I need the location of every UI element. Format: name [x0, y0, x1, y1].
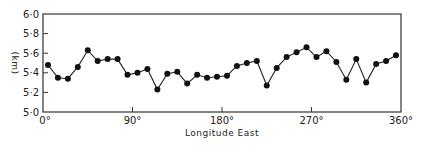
data-point	[125, 72, 131, 78]
data-point	[353, 56, 359, 62]
data-point	[393, 52, 399, 58]
y-tick-label: 5·6	[23, 48, 39, 59]
data-point	[274, 65, 280, 71]
x-axis-title: Longitude East	[185, 128, 259, 138]
data-point	[284, 54, 290, 60]
data-point	[383, 58, 389, 64]
data-point	[115, 56, 121, 62]
data-point	[174, 69, 180, 75]
x-tick-label: 90°	[124, 115, 142, 126]
data-point	[204, 75, 210, 81]
y-axis-title: (km)	[10, 51, 20, 74]
data-point	[184, 81, 190, 87]
data-point	[323, 48, 329, 54]
data-point	[95, 58, 101, 64]
data-series	[45, 44, 399, 92]
data-point	[55, 75, 61, 81]
y-tick-label: 5·2	[23, 87, 39, 98]
data-point	[45, 62, 51, 68]
data-point	[105, 56, 111, 62]
x-tick-label: 180°	[210, 115, 234, 126]
x-tick-label: 0°	[39, 115, 50, 126]
data-point	[234, 63, 240, 69]
data-point	[154, 86, 160, 92]
data-point	[134, 70, 140, 76]
data-point	[214, 74, 220, 80]
x-tick-label: 360°	[389, 115, 413, 126]
data-point	[75, 64, 81, 70]
data-point	[343, 77, 349, 83]
data-point	[85, 47, 91, 53]
data-point	[373, 61, 379, 67]
data-point	[363, 80, 369, 86]
data-point	[333, 59, 339, 65]
data-point	[254, 58, 260, 64]
y-tick-label: 5·0	[23, 107, 39, 118]
x-axis: 0°90°180°270°360°	[39, 107, 413, 126]
data-point	[264, 83, 270, 89]
y-axis: 5·05·25·45·65·86·0	[23, 9, 48, 118]
data-point	[244, 60, 250, 66]
data-point	[144, 66, 150, 72]
data-point	[194, 72, 200, 78]
data-point	[304, 44, 310, 50]
data-point	[65, 76, 71, 82]
data-point	[224, 73, 230, 79]
y-tick-label: 5·4	[23, 67, 39, 78]
data-point	[313, 54, 319, 60]
y-tick-label: 6·0	[23, 9, 39, 20]
line-chart: 5·05·25·45·65·86·0 0°90°180°270°360° Lon…	[0, 0, 422, 147]
x-tick-label: 270°	[299, 115, 323, 126]
y-tick-label: 5·8	[23, 28, 39, 39]
data-point	[294, 49, 300, 55]
data-point	[164, 71, 170, 77]
series-line	[48, 47, 396, 89]
